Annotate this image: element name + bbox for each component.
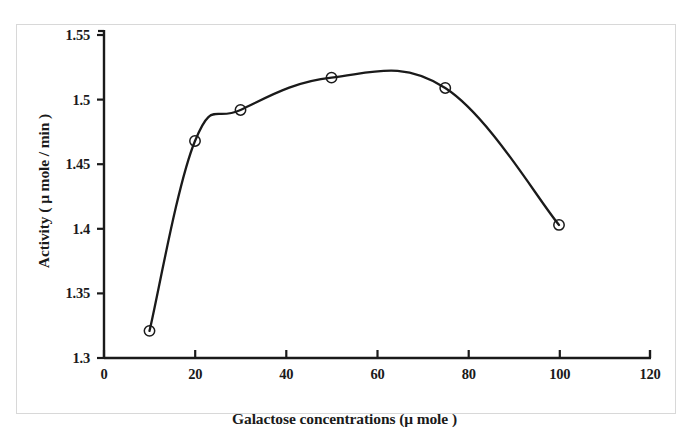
y-tick-label-1-55: 1.55 xyxy=(28,27,90,44)
x-tick-label-100: 100 xyxy=(549,366,570,383)
figure-canvas: 1.55 1.5 1.45 1.4 1.35 1.3 0 20 40 60 80… xyxy=(0,0,689,445)
x-tick-label-120: 120 xyxy=(639,366,660,383)
x-tick-label-20: 20 xyxy=(188,366,202,383)
x-tick-label-0: 0 xyxy=(100,366,107,383)
y-axis-title: Activity ( μ mole / min ) xyxy=(35,66,53,316)
data-point-markers xyxy=(144,72,564,336)
x-tick-label-60: 60 xyxy=(370,366,384,383)
x-tick-label-80: 80 xyxy=(462,366,476,383)
data-point xyxy=(190,136,200,146)
y-tick-label-1-3: 1.3 xyxy=(28,350,90,367)
data-point xyxy=(554,220,564,230)
data-series-line xyxy=(150,71,560,331)
data-point xyxy=(326,72,336,82)
x-axis-title: Galactose concentrations (μ mole ) xyxy=(0,410,689,428)
data-point xyxy=(440,83,450,93)
data-point xyxy=(235,105,245,115)
data-point xyxy=(144,326,154,336)
x-tick-label-40: 40 xyxy=(279,366,293,383)
